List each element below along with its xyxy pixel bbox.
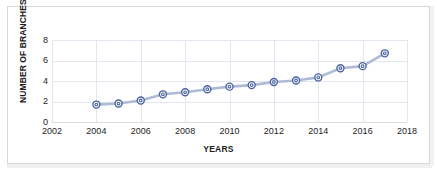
x-tick-label: 2010 [210, 126, 250, 136]
x-axis-title: YEARS [0, 144, 437, 154]
data-point-marker [115, 100, 122, 107]
plot-area [52, 40, 407, 122]
x-axis-tick-labels: 200220042006200820102012201420162018 [52, 126, 412, 138]
y-tick-label: 2 [28, 97, 48, 106]
x-tick-label: 2004 [76, 126, 116, 136]
x-tick-label: 2014 [298, 126, 338, 136]
chart-figure: NUMBER OF BRANCHES 02468 200220042006200… [0, 0, 437, 177]
data-point-marker [226, 83, 233, 90]
gridline-vertical [407, 40, 408, 122]
x-tick-label: 2008 [165, 126, 205, 136]
data-point-marker [182, 89, 189, 96]
x-tick-label: 2006 [121, 126, 161, 136]
scan-shadow-right [430, 6, 434, 166]
y-tick-label: 8 [28, 36, 48, 45]
y-tick-label: 4 [28, 77, 48, 86]
x-tick-label: 2012 [254, 126, 294, 136]
data-point-marker [293, 77, 300, 84]
x-tick-label: 2002 [32, 126, 72, 136]
data-point-marker [159, 91, 166, 98]
data-point-marker [137, 97, 144, 104]
data-point-marker [270, 79, 277, 86]
series-line-and-markers [52, 40, 407, 122]
data-point-marker [359, 63, 366, 70]
data-point-marker [248, 82, 255, 89]
data-point-marker [381, 50, 388, 57]
scan-shadow-bottom [7, 164, 432, 168]
x-tick-label: 2016 [343, 126, 383, 136]
data-point-marker [204, 86, 211, 93]
data-point-marker [93, 101, 100, 108]
data-point-marker [315, 74, 322, 81]
y-tick-label: 6 [28, 56, 48, 65]
x-axis-line [52, 122, 407, 123]
x-tick-label: 2018 [387, 126, 427, 136]
data-point-marker [337, 65, 344, 72]
